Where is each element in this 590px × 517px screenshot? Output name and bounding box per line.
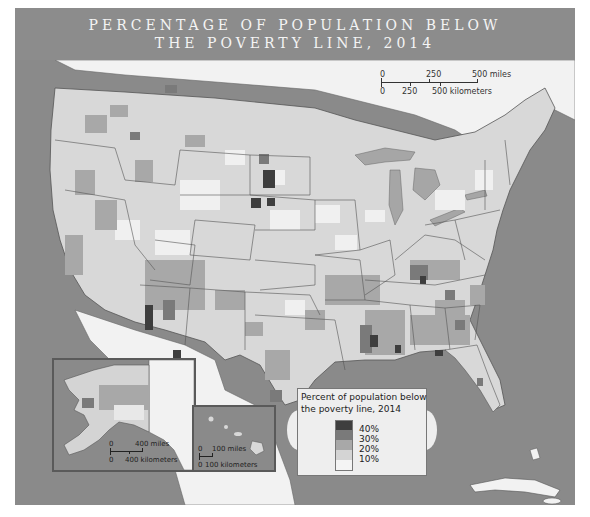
legend-swatch-0-10 <box>335 460 353 471</box>
map-figure: PERCENTAGE OF POPULATION BELOW THE POVER… <box>15 8 575 505</box>
florida-poverty-cluster <box>477 378 483 386</box>
legend-swatch-10-20 <box>335 450 353 460</box>
legend-label-10: 10% <box>359 454 379 464</box>
scale-bar-tick <box>477 79 478 83</box>
scale-bar-tick <box>410 82 411 86</box>
scale-km-0: 0 <box>380 87 385 96</box>
legend-label-40: 40% <box>359 424 379 434</box>
hawaii-scale-miles-100: 100 miles <box>212 445 246 453</box>
alaska-map <box>54 360 194 470</box>
legend-label-20: 20% <box>359 444 379 454</box>
hawaii-scale-bar: 0 100 miles 0 100 kilometers <box>198 445 202 453</box>
us-choropleth-map: 0 250 500 miles 0 250 500 kilometers <box>15 60 575 505</box>
alaska-scale-km-0: 0 <box>109 456 113 464</box>
map-title-line-1: PERCENTAGE OF POPULATION BELOW <box>15 17 575 34</box>
map-legend: Percent of population below the poverty … <box>287 388 437 478</box>
legend-swatch-20-30 <box>335 440 353 450</box>
hawaii-scale-km-100: 100 kilometers <box>205 461 258 469</box>
legend-title-line-1: Percent of population below <box>301 391 431 403</box>
scale-bar-tick <box>440 82 441 86</box>
scale-km-500: 500 kilometers <box>432 87 492 96</box>
alaska-inset: 0 400 miles 0 400 kilometers <box>52 358 196 472</box>
alaska-scale-miles-400: 400 miles <box>135 440 169 448</box>
legend-label-30: 30% <box>359 434 379 444</box>
map-title-line-2: THE POVERTY LINE, 2014 <box>15 35 575 52</box>
legend-swatch-30-40 <box>335 430 353 440</box>
scale-bar-tick <box>381 78 382 87</box>
alaska-scale-km-400: 400 kilometers <box>125 456 178 464</box>
hawaii-inset: 0 100 miles 0 100 kilometers <box>192 405 276 472</box>
legend-title: Percent of population below the poverty … <box>301 391 431 415</box>
legend-title-line-2: the poverty line, 2014 <box>301 403 431 415</box>
hawaii-scale-km-0: 0 <box>198 461 202 469</box>
alaska-scale-bar: 0 400 miles 0 400 kilometers <box>109 440 113 448</box>
hawaii-scale-miles-0: 0 <box>198 445 202 453</box>
scale-bar-tick <box>429 79 430 83</box>
jamaica-land <box>543 498 561 504</box>
scale-miles-250: 250 <box>426 70 441 79</box>
scale-km-250: 250 <box>402 87 417 96</box>
scale-miles-500: 500 miles <box>472 70 511 79</box>
alaska-scale-miles-0: 0 <box>109 440 113 448</box>
scale-bar: 0 250 500 miles 0 250 500 kilometers <box>380 70 530 106</box>
map-title-banner: PERCENTAGE OF POPULATION BELOW THE POVER… <box>15 8 575 60</box>
